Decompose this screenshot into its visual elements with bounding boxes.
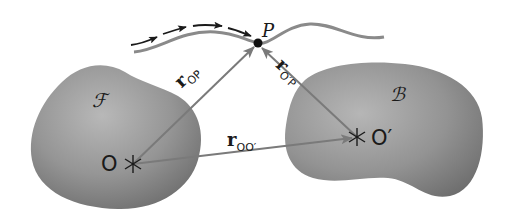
- frames-diagram: P ℱ ℬ O O′ rOP rO′P rOO′: [0, 0, 508, 213]
- body-B-label: ℬ: [390, 85, 405, 104]
- point-P-label: P: [262, 22, 274, 40]
- vector-r-OO'-subscript: OO′: [236, 141, 256, 154]
- origin-O'-label: O′: [371, 128, 392, 149]
- body-F-shape: [31, 65, 201, 209]
- origin-O-label: O: [101, 154, 118, 175]
- body-F-label: ℱ: [92, 91, 107, 110]
- diagram-canvas: [0, 0, 508, 213]
- trajectory-curve: [134, 24, 384, 52]
- vector-r-OO'-label: rOO′: [227, 131, 256, 153]
